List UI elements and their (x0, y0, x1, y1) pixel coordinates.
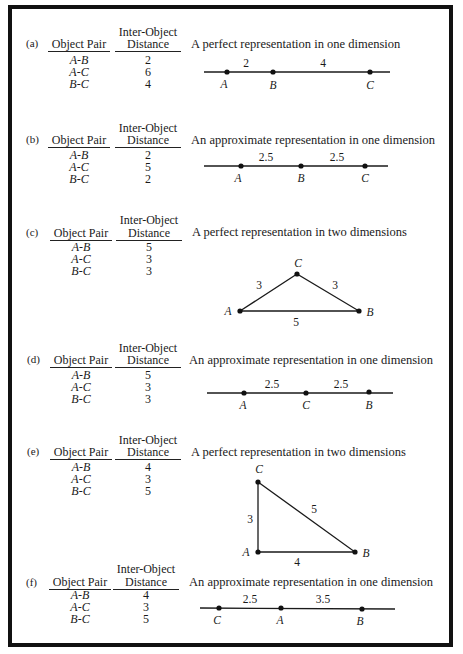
one-dimension-line-diagram: 2.5 3.5 C A B (0, 0, 463, 654)
point-dot (216, 605, 221, 610)
point-dot (359, 606, 364, 611)
point-dot (278, 605, 283, 610)
point-label: B (356, 615, 363, 627)
segment-label: 3.5 (316, 593, 331, 605)
point-label: A (275, 614, 284, 626)
point-label: C (213, 614, 221, 626)
segment-label: 2.5 (243, 593, 258, 605)
